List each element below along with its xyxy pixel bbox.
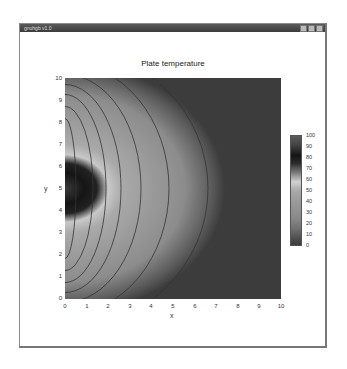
x-tick: 2 bbox=[102, 303, 114, 309]
x-tick: 5 bbox=[167, 303, 179, 309]
y-tick: 1 bbox=[52, 273, 62, 279]
close-button[interactable] bbox=[316, 25, 323, 32]
colorbar-tick: 0 bbox=[306, 242, 309, 248]
x-tick: 4 bbox=[145, 303, 157, 309]
window-title: gnuhgb v1.0 bbox=[24, 24, 52, 32]
y-tick: 5 bbox=[52, 185, 62, 191]
x-tick: 7 bbox=[210, 303, 222, 309]
x-tick: 10 bbox=[275, 303, 287, 309]
y-tick: 10 bbox=[52, 75, 62, 81]
y-tick: 8 bbox=[52, 119, 62, 125]
x-tick: 9 bbox=[253, 303, 265, 309]
chart-title: Plate temperature bbox=[65, 59, 281, 68]
colorbar-tick: 90 bbox=[306, 143, 312, 149]
y-tick: 2 bbox=[52, 251, 62, 257]
colorbar bbox=[290, 135, 302, 246]
y-tick: 4 bbox=[52, 207, 62, 213]
colorbar-tick: 60 bbox=[306, 176, 312, 182]
heatmap-plot bbox=[65, 78, 281, 299]
x-tick: 8 bbox=[232, 303, 244, 309]
x-tick: 1 bbox=[81, 303, 93, 309]
y-tick: 9 bbox=[52, 97, 62, 103]
x-tick: 6 bbox=[189, 303, 201, 309]
y-tick: 6 bbox=[52, 163, 62, 169]
y-tick: 3 bbox=[52, 229, 62, 235]
maximize-button[interactable] bbox=[308, 25, 315, 32]
colorbar-tick: 80 bbox=[306, 154, 312, 160]
y-tick: 0 bbox=[52, 295, 62, 301]
x-axis-label: x bbox=[170, 312, 174, 319]
colorbar-tick: 30 bbox=[306, 209, 312, 215]
y-axis-label: y bbox=[44, 185, 48, 192]
colorbar-tick: 40 bbox=[306, 198, 312, 204]
y-tick: 7 bbox=[52, 141, 62, 147]
colorbar-tick: 70 bbox=[306, 165, 312, 171]
colorbar-tick: 50 bbox=[306, 187, 312, 193]
title-bar[interactable]: gnuhgb v1.0 bbox=[20, 24, 325, 32]
colorbar-tick: 20 bbox=[306, 220, 312, 226]
minimize-button[interactable] bbox=[300, 25, 307, 32]
x-tick: 0 bbox=[59, 303, 71, 309]
colorbar-tick: 100 bbox=[306, 132, 315, 138]
colorbar-tick: 10 bbox=[306, 231, 312, 237]
x-tick: 3 bbox=[124, 303, 136, 309]
